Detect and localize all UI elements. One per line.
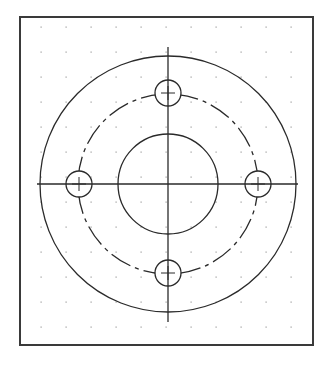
grid-dot <box>241 177 242 178</box>
grid-dot <box>266 27 267 28</box>
grid-dot <box>166 27 167 28</box>
grid-dot <box>241 77 242 78</box>
grid-dot <box>91 27 92 28</box>
grid-dot <box>166 327 167 328</box>
grid-dot <box>291 77 292 78</box>
grid-dot <box>41 77 42 78</box>
grid-dot <box>41 102 42 103</box>
grid-dot <box>41 302 42 303</box>
grid-dot <box>141 52 142 53</box>
grid-dot <box>141 277 142 278</box>
grid-dot <box>241 127 242 128</box>
grid-dot <box>241 252 242 253</box>
grid-dot <box>141 327 142 328</box>
grid-dot <box>191 177 192 178</box>
grid-dot <box>141 77 142 78</box>
grid-dot <box>266 227 267 228</box>
cad-drawing-canvas <box>0 0 334 371</box>
grid-dot <box>191 302 192 303</box>
grid-dot <box>291 102 292 103</box>
grid-dot <box>66 52 67 53</box>
grid-dot <box>66 227 67 228</box>
grid-dot <box>191 152 192 153</box>
grid-dot <box>266 202 267 203</box>
grid-dot <box>116 227 117 228</box>
grid-dot <box>191 252 192 253</box>
grid-dot <box>91 302 92 303</box>
grid-dot <box>91 252 92 253</box>
grid-dot <box>266 127 267 128</box>
grid-dot <box>216 127 217 128</box>
grid-dot <box>91 102 92 103</box>
grid-dot <box>216 152 217 153</box>
grid-dot <box>291 177 292 178</box>
grid-dot <box>91 202 92 203</box>
grid-dot <box>191 77 192 78</box>
grid-dot <box>141 302 142 303</box>
grid-dot <box>116 177 117 178</box>
grid-dot <box>291 27 292 28</box>
grid-dot <box>116 327 117 328</box>
grid-dot <box>191 327 192 328</box>
grid-dot <box>66 327 67 328</box>
grid-dot <box>241 302 242 303</box>
grid-dot <box>66 252 67 253</box>
grid-dot <box>191 202 192 203</box>
grid-dot <box>141 177 142 178</box>
grid-dot <box>266 77 267 78</box>
grid-dot <box>91 327 92 328</box>
grid-dot <box>216 27 217 28</box>
grid-dot <box>291 277 292 278</box>
grid-dot <box>141 152 142 153</box>
grid-dot <box>291 52 292 53</box>
grid-dot <box>66 127 67 128</box>
grid-dot <box>191 52 192 53</box>
grid-dot <box>266 302 267 303</box>
grid-dot <box>116 252 117 253</box>
grid-dot <box>91 277 92 278</box>
grid-dot <box>41 27 42 28</box>
grid-dot <box>166 127 167 128</box>
grid-dot <box>41 127 42 128</box>
grid-dot <box>266 327 267 328</box>
grid-dot <box>141 127 142 128</box>
grid-dot <box>216 252 217 253</box>
grid-dot <box>291 302 292 303</box>
grid-dot <box>241 327 242 328</box>
grid-dot <box>216 102 217 103</box>
grid-dot <box>91 77 92 78</box>
grid-dot <box>41 327 42 328</box>
grid-dot <box>91 127 92 128</box>
grid-dot <box>91 227 92 228</box>
grid-dot <box>241 277 242 278</box>
grid-dot <box>241 102 242 103</box>
grid-dot <box>291 227 292 228</box>
grid-dot <box>216 77 217 78</box>
grid-dot <box>66 152 67 153</box>
grid-dot <box>141 252 142 253</box>
grid-dot <box>266 152 267 153</box>
grid-dot <box>241 52 242 53</box>
grid-dot <box>41 52 42 53</box>
grid-dot <box>291 202 292 203</box>
grid-dot <box>191 102 192 103</box>
grid-dot <box>66 27 67 28</box>
grid-dot <box>216 177 217 178</box>
grid-dot <box>41 152 42 153</box>
grid-dot <box>166 52 167 53</box>
grid-dot <box>116 202 117 203</box>
grid-dot <box>141 202 142 203</box>
grid-dot <box>241 27 242 28</box>
grid-dot <box>266 52 267 53</box>
grid-dot <box>166 177 167 178</box>
grid-dot <box>116 152 117 153</box>
grid-dot <box>241 152 242 153</box>
grid-dot <box>66 302 67 303</box>
grid-dot <box>291 252 292 253</box>
grid-dot <box>166 227 167 228</box>
grid-dot <box>266 252 267 253</box>
grid-dot <box>191 277 192 278</box>
grid-dot <box>141 27 142 28</box>
grid-dot <box>166 152 167 153</box>
grid-dot <box>191 127 192 128</box>
